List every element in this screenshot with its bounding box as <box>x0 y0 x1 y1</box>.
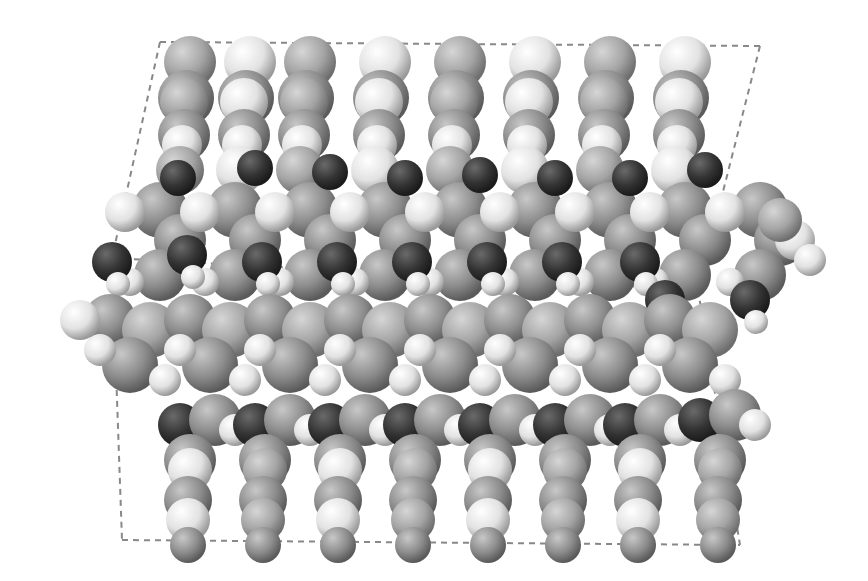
carbon-atom <box>620 527 656 563</box>
oxygen-atom <box>312 154 348 190</box>
oxygen-atom <box>462 157 498 193</box>
carbon-atom <box>395 527 431 563</box>
hydrogen-atom <box>180 192 220 232</box>
hydrogen-atom <box>629 364 661 396</box>
hydrogen-atom <box>555 192 595 232</box>
hydrogen-atom <box>60 300 100 340</box>
hydrogen-atom <box>405 192 445 232</box>
oxygen-atom <box>387 160 423 196</box>
hydrogen-atom <box>164 334 196 366</box>
hydrogen-atom <box>549 364 581 396</box>
hydrogen-atom <box>630 192 670 232</box>
space-filling-model <box>0 0 868 581</box>
hydrogen-atom <box>556 272 580 296</box>
atoms-layer <box>60 36 826 563</box>
hydrogen-atom <box>181 265 205 289</box>
hydrogen-atom <box>331 272 355 296</box>
hydrogen-atom <box>324 334 356 366</box>
hydrogen-atom <box>480 192 520 232</box>
hydrogen-atom <box>256 272 280 296</box>
carbon-atom <box>170 527 206 563</box>
hydrogen-atom <box>149 364 181 396</box>
hydrogen-atom <box>389 364 421 396</box>
hydrogen-atom <box>105 192 145 232</box>
hydrogen-atom <box>794 244 826 276</box>
oxygen-atom <box>687 152 723 188</box>
hydrogen-atom <box>484 334 516 366</box>
oxygen-atom <box>160 160 196 196</box>
hydrogen-atom <box>739 409 771 441</box>
carbon-atom <box>758 198 802 242</box>
hydrogen-atom <box>744 310 768 334</box>
hydrogen-atom <box>330 192 370 232</box>
hydrogen-atom <box>644 334 676 366</box>
carbon-atom <box>545 527 581 563</box>
hydrogen-atom <box>244 334 276 366</box>
hydrogen-atom <box>255 192 295 232</box>
oxygen-atom <box>612 160 648 196</box>
hydrogen-atom <box>404 334 436 366</box>
hydrogen-atom <box>106 272 130 296</box>
molecular-crystal-packing-image <box>0 0 868 581</box>
carbon-atom <box>320 527 356 563</box>
hydrogen-atom <box>309 364 341 396</box>
oxygen-atom <box>237 150 273 186</box>
hydrogen-atom <box>84 334 116 366</box>
carbon-atom <box>245 527 281 563</box>
carbon-atom <box>470 527 506 563</box>
carbon-atom <box>700 527 736 563</box>
hydrogen-atom <box>705 192 745 232</box>
hydrogen-atom <box>564 334 596 366</box>
oxygen-atom <box>537 160 573 196</box>
hydrogen-atom <box>481 272 505 296</box>
hydrogen-atom <box>469 364 501 396</box>
hydrogen-atom <box>406 272 430 296</box>
hydrogen-atom <box>229 364 261 396</box>
